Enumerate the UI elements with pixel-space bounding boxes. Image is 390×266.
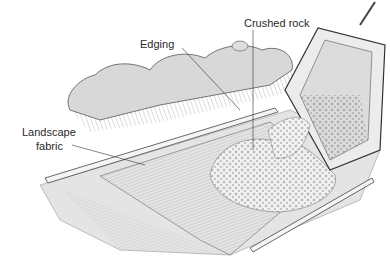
label-landscape-fabric-line1: Landscape bbox=[22, 126, 76, 138]
label-edging: Edging bbox=[140, 38, 174, 50]
label-landscape-fabric-line2: fabric bbox=[36, 140, 63, 152]
label-crushed-rock: Crushed rock bbox=[244, 17, 309, 29]
